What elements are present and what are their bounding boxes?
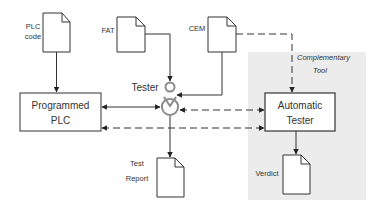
document-fat[interactable]: FAT — [101, 17, 145, 52]
test-report-label-line1: Test — [130, 159, 145, 168]
document-cem[interactable]: CEM — [189, 17, 236, 52]
fat-label: FAT — [101, 26, 115, 35]
programmed-plc-label-line1: Programmed — [32, 100, 90, 111]
verdict-label: Verdict — [256, 169, 280, 178]
diagram-canvas: PLC code FAT CEM Test Report Verdict Pro… — [0, 0, 383, 208]
programmed-plc-label-line2: PLC — [51, 115, 70, 126]
document-icon — [43, 13, 70, 52]
complementary-tool-label-line2: Tool — [313, 66, 327, 75]
automatic-tester-label-line2: Tester — [286, 115, 314, 126]
edge-fat-to-tester — [145, 34, 170, 81]
automatic-tester-label-line1: Automatic — [278, 100, 322, 111]
programmed-plc-box[interactable]: Programmed PLC — [20, 93, 101, 131]
plc-code-label-line2: code — [25, 32, 41, 41]
tester-actor[interactable]: Tester — [131, 82, 178, 115]
automatic-tester-box[interactable]: Automatic Tester — [265, 93, 335, 131]
document-test-report[interactable]: Test Report — [126, 158, 184, 197]
document-icon — [157, 158, 184, 197]
document-plc-code[interactable]: PLC code — [25, 13, 70, 52]
cem-label: CEM — [189, 24, 206, 33]
plc-code-label-line1: PLC — [26, 22, 41, 31]
person-icon-head — [166, 83, 175, 92]
document-icon — [283, 155, 310, 194]
test-report-label-line2: Report — [126, 174, 149, 183]
complementary-tool-label-line1: Complementary — [297, 53, 351, 62]
tester-label: Tester — [131, 82, 159, 93]
document-icon — [208, 17, 236, 52]
edge-cem-to-tester — [177, 52, 222, 95]
document-icon — [117, 17, 145, 52]
